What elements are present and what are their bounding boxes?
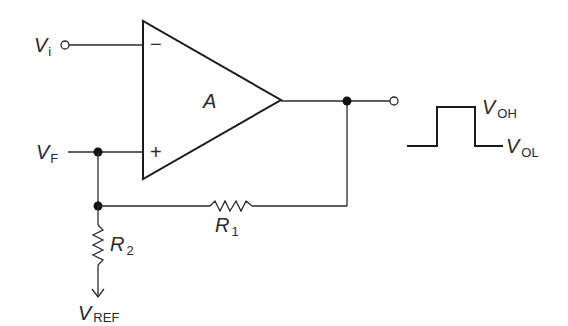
vi-label: Vi	[34, 34, 51, 59]
r2-label: R2	[110, 233, 134, 258]
vi-terminal	[61, 41, 69, 49]
voh-label: VOH	[482, 96, 517, 121]
r2-resistor	[93, 225, 103, 265]
r1-label: R1	[215, 214, 239, 239]
output-terminal	[390, 97, 398, 105]
opamp-gain-label: A	[202, 90, 216, 112]
schmitt-trigger-diagram: A − + Vi VF R1 R2 VREF VOH VOL	[0, 0, 568, 326]
r1-resistor	[210, 201, 252, 211]
vref-label: VREF	[78, 302, 119, 325]
vol-label: VOL	[506, 135, 539, 160]
noninverting-input-sign: +	[150, 141, 162, 163]
output-junction-dot	[343, 97, 352, 106]
vf-label: VF	[36, 141, 58, 166]
inverting-input-sign: −	[150, 33, 162, 55]
